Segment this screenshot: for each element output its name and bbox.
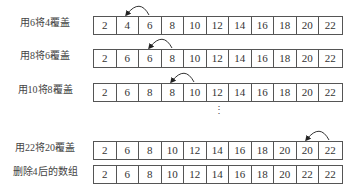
arc-arrow-row2: [150, 39, 172, 48]
array-cell: 8: [162, 84, 185, 101]
array-cell: 18: [274, 84, 297, 101]
array-cell: 12: [207, 84, 230, 101]
array-row: 2 6 8 10 12 14 16 18 20 20 22: [93, 141, 343, 160]
array-cell: 18: [274, 17, 297, 34]
array-cell: 6: [117, 142, 140, 159]
array-cell: 20: [297, 17, 320, 34]
array-cell: 2: [94, 50, 117, 67]
row-label: 用6将4覆盖: [0, 17, 90, 29]
array-cell: 6: [117, 166, 140, 183]
array-cell: 10: [184, 84, 207, 101]
array-cell: 2: [94, 166, 117, 183]
array-cell: 22: [319, 142, 342, 159]
array-cell: 16: [252, 50, 275, 67]
array-cell: 2: [94, 84, 117, 101]
array-cell: 10: [162, 166, 185, 183]
row-label: 用8将6覆盖: [0, 50, 90, 62]
array-cell: 8: [162, 17, 185, 34]
array-cell: 12: [207, 17, 230, 34]
array-cell: 16: [229, 166, 252, 183]
array-cell: 8: [139, 166, 162, 183]
ellipsis: ⋮: [214, 108, 224, 111]
array-cell: 14: [207, 166, 230, 183]
row-label: 用22将20覆盖: [0, 142, 90, 154]
array-cell: 20: [274, 166, 297, 183]
array-cell: 10: [162, 142, 185, 159]
array-cell: 20: [297, 84, 320, 101]
array-cell: 22: [319, 166, 342, 183]
array-cell: 8: [139, 142, 162, 159]
row-label: 删除4后的数组: [0, 166, 90, 178]
array-cell: 2: [94, 17, 117, 34]
arc-arrow-row4: [307, 131, 329, 140]
array-cell: 14: [207, 142, 230, 159]
array-cell: 8: [162, 50, 185, 67]
array-cell: 20: [297, 50, 320, 67]
array-cell: 6: [117, 50, 140, 67]
arc-arrow-row3: [172, 73, 194, 82]
row-label: 用10将8覆盖: [0, 84, 90, 96]
array-cell: 8: [139, 84, 162, 101]
arc-arrow-row1: [127, 6, 149, 15]
array-row: 2 6 8 10 12 14 16 18 20 22 22: [93, 165, 343, 184]
array-cell: 16: [252, 84, 275, 101]
array-cell: 20: [297, 142, 320, 159]
array-cell: 22: [319, 17, 342, 34]
array-row: 2 6 6 8 10 12 14 16 18 20 22: [93, 49, 343, 68]
array-cell: 6: [117, 84, 140, 101]
array-cell: 22: [319, 84, 342, 101]
array-cell: 14: [229, 50, 252, 67]
array-cell: 16: [252, 17, 275, 34]
array-cell: 18: [252, 142, 275, 159]
array-cell: 12: [184, 142, 207, 159]
array-cell: 14: [229, 84, 252, 101]
array-cell: 18: [274, 50, 297, 67]
array-cell: 6: [139, 17, 162, 34]
array-cell: 10: [184, 17, 207, 34]
array-cell: 2: [94, 142, 117, 159]
array-cell: 22: [297, 166, 320, 183]
array-cell: 12: [184, 166, 207, 183]
array-cell: 22: [319, 50, 342, 67]
array-cell: 16: [229, 142, 252, 159]
array-cell: 14: [229, 17, 252, 34]
array-row: 2 4 6 8 10 12 14 16 18 20 22: [93, 16, 343, 35]
array-cell: 20: [274, 142, 297, 159]
array-cell: 6: [139, 50, 162, 67]
array-cell: 18: [252, 166, 275, 183]
array-cell: 10: [184, 50, 207, 67]
array-cell: 4: [117, 17, 140, 34]
array-cell: 12: [207, 50, 230, 67]
array-row: 2 6 8 8 10 12 14 16 18 20 22: [93, 83, 343, 102]
